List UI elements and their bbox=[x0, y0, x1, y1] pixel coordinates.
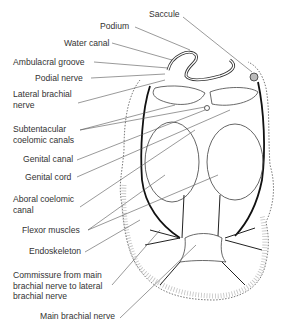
label-subtentacular-coelomic-canals: Subtentacular coelomic canals bbox=[13, 124, 88, 145]
label-genital-canal: Genital canal bbox=[23, 154, 73, 165]
endoskeleton-outline bbox=[120, 62, 273, 300]
flexor-muscle-left bbox=[145, 122, 199, 202]
label-endoskeleton: Endoskeleton bbox=[29, 246, 81, 257]
label-genital-cord: Genital cord bbox=[25, 172, 71, 183]
label-podial-nerve: Podial nerve bbox=[35, 73, 83, 84]
label-saccule: Saccule bbox=[149, 9, 180, 20]
label-water-canal: Water canal bbox=[64, 38, 110, 49]
label-podium: Podium bbox=[100, 21, 129, 32]
upper-muscle-right bbox=[210, 88, 258, 106]
flexor-muscle-right bbox=[207, 124, 263, 200]
label-flexor-muscles: Flexor muscles bbox=[22, 225, 80, 236]
label-ambulacral-groove: Ambulacral groove bbox=[13, 57, 85, 68]
upper-muscle-left bbox=[153, 86, 205, 105]
label-commissure: Commissure from main brachial nerve to l… bbox=[13, 270, 113, 302]
label-main-brachial-nerve: Main brachial nerve bbox=[40, 311, 115, 322]
label-aboral-coelomic-canal: Aboral coelomic canal bbox=[13, 194, 83, 215]
label-lateral-brachial-nerve: Lateral brachial nerve bbox=[13, 89, 88, 110]
saccule-shape bbox=[250, 73, 258, 81]
ossicle bbox=[180, 234, 226, 263]
coelom-wall bbox=[141, 82, 264, 238]
